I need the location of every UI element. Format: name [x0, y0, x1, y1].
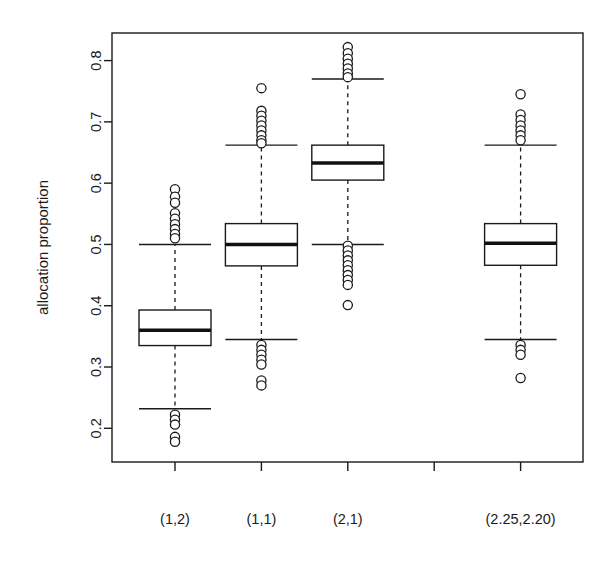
outlier-point: [516, 350, 525, 359]
outlier-point: [257, 360, 266, 369]
outlier-point: [343, 280, 352, 289]
outlier-point: [170, 437, 179, 446]
y-axis-title: allocation proportion: [34, 180, 51, 315]
box-iqr: [139, 310, 211, 346]
x-category-label: (1,2): [160, 511, 190, 527]
boxplot-canvas: 0.20.30.40.50.60.70.8allocation proporti…: [0, 0, 613, 572]
y-tick-label: 0.3: [88, 357, 104, 377]
y-tick-label: 0.6: [88, 173, 104, 193]
outlier-point: [170, 420, 179, 429]
y-tick-label: 0.8: [88, 50, 104, 70]
boxplot-figure: 0.20.30.40.50.60.70.8allocation proporti…: [0, 0, 613, 572]
outlier-point: [257, 84, 266, 93]
outlier-point: [343, 73, 352, 82]
x-category-label: (2.25,2.20): [486, 511, 556, 527]
y-tick-label: 0.4: [88, 296, 104, 316]
x-category-label: (2,1): [333, 511, 363, 527]
outlier-point: [516, 90, 525, 99]
outlier-point: [516, 373, 525, 382]
outlier-point: [170, 198, 179, 207]
outlier-point: [257, 381, 266, 390]
y-tick-label: 0.5: [88, 234, 104, 254]
y-tick-label: 0.2: [88, 418, 104, 438]
outlier-point: [170, 234, 179, 243]
figure-background: [0, 0, 613, 572]
outlier-point: [343, 301, 352, 310]
y-tick-label: 0.7: [88, 112, 104, 132]
outlier-point: [516, 136, 525, 145]
outlier-point: [257, 139, 266, 148]
x-category-label: (1,1): [246, 511, 276, 527]
